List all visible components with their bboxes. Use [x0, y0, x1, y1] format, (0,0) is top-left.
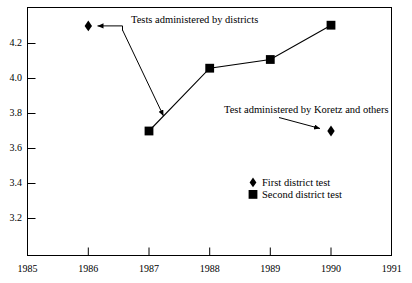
- y-axis-label-4.0: 4.0: [0, 73, 22, 83]
- plot-canvas: [0, 0, 412, 283]
- x-axis-label-1986: 1986: [68, 264, 108, 274]
- x-axis-label-1989: 1989: [250, 264, 290, 274]
- x-axis-label-1987: 1987: [129, 264, 169, 274]
- y-axis-label-3.8: 3.8: [0, 108, 22, 118]
- legend-square-icon: [249, 190, 258, 199]
- annotation-koretz: Test administered by Koretz and others: [224, 104, 389, 115]
- data-point-1988: [205, 64, 214, 73]
- x-axis-label-1991: 1991: [372, 264, 412, 274]
- legend-label-second-district-test: Second district test: [262, 189, 342, 200]
- y-axis-label-3.6: 3.6: [0, 143, 22, 153]
- data-point-1987: [145, 127, 154, 136]
- y-axis-label-3.2: 3.2: [0, 213, 22, 223]
- legend-label-first-district-test: First district test: [262, 177, 330, 188]
- annotation-districts: Tests administered by districts: [131, 14, 258, 25]
- y-axis-label-4.2: 4.2: [0, 38, 22, 48]
- data-point-1989: [266, 55, 275, 64]
- x-axis-label-1988: 1988: [190, 264, 230, 274]
- x-axis-label-1985: 1985: [8, 264, 48, 274]
- x-axis-label-1990: 1990: [311, 264, 351, 274]
- plot-frame: [28, 8, 392, 256]
- chart-figure: 4.2 4.0 3.8 3.6 3.4 3.2 1985 1986 1987 1…: [0, 0, 412, 283]
- y-axis-label-3.4: 3.4: [0, 178, 22, 188]
- data-point-1990-square: [327, 21, 336, 30]
